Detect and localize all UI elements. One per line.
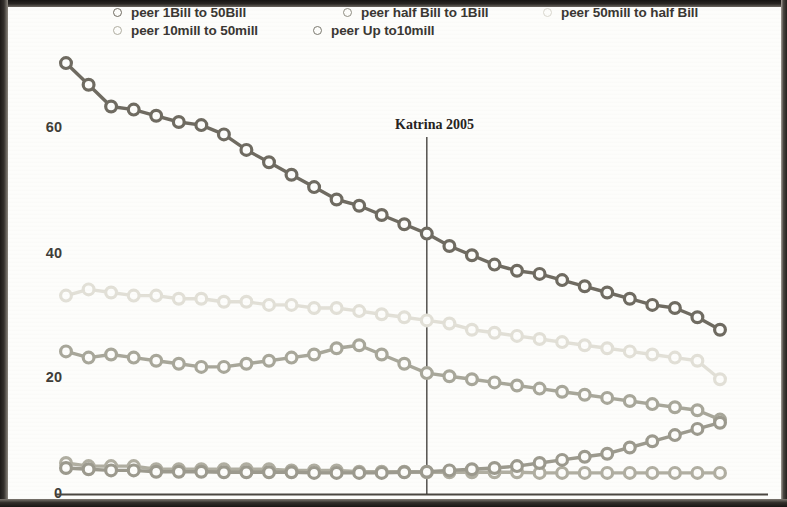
series-data-point-marker [534,334,545,345]
series-data-point-marker [173,466,184,477]
series-line [66,423,720,473]
series-data-point-marker [670,352,681,363]
series-data-point-marker [286,169,297,180]
series-data-point-marker [376,309,387,320]
series-data-point-marker [692,468,703,479]
series-data-point-marker [444,318,455,329]
series-data-point-marker [512,461,523,472]
series-data-point-marker [83,352,94,363]
series-data-point-marker [219,296,230,307]
frame-border-bottom [0,499,787,507]
series-data-point-marker [647,349,658,360]
series-data-point-marker [106,349,117,360]
series-data-point-marker [286,352,297,363]
series-data-point-marker [579,340,590,351]
series-data-point-marker [489,377,500,388]
series-data-point-marker [196,293,207,304]
series-data-point-marker [534,383,545,394]
series-data-point-marker [309,303,320,314]
series-line [66,289,720,379]
series-data-point-marker [61,58,72,69]
series-data-point-marker [331,194,342,205]
series-data-point-marker [264,157,275,168]
series-data-point-marker [647,468,658,479]
series-data-point-marker [692,355,703,366]
series-data-point-marker [421,228,432,239]
series-data-point-marker [579,281,590,292]
series-data-point-marker [128,290,139,301]
series-data-point-marker [489,259,500,270]
chart-screenshot: peer 1Bill to 50Billpeer half Bill to 1B… [0,0,787,507]
series-data-point-marker [692,405,703,416]
series-data-point-marker [106,287,117,298]
series-data-point-marker [376,349,387,360]
series-data-point-marker [61,290,72,301]
series-data-point-marker [219,467,230,478]
series-data-point-marker [624,396,635,407]
series-data-point-marker [196,466,207,477]
series-data-point-marker [83,284,94,295]
series-data-point-marker [670,402,681,413]
series-data-point-marker [444,241,455,252]
series-data-point-marker [624,346,635,357]
series-data-point-marker [354,306,365,317]
series-data-point-marker [534,458,545,469]
series-data-point-marker [692,312,703,323]
series-data-point-marker [128,352,139,363]
series-data-point-marker [647,436,658,447]
series-data-point-marker [331,303,342,314]
series-data-point-marker [83,79,94,90]
series-data-point-marker [106,101,117,112]
series-data-point-marker [512,265,523,276]
series-data-point-marker [421,315,432,326]
series-data-point-marker [376,210,387,221]
series-data-point-marker [151,110,162,121]
series-data-point-marker [557,455,568,466]
series-data-point-marker [61,346,72,357]
series-data-point-marker [715,324,726,335]
series-data-point-marker [83,464,94,475]
series-data-point-marker [128,104,139,115]
series-data-point-marker [467,374,478,385]
series-data-point-marker [196,120,207,131]
series-data-point-marker [151,290,162,301]
series-data-point-marker [399,219,410,230]
series-data-point-marker [467,250,478,261]
series-data-point-marker [624,293,635,304]
series-data-point-marker [512,380,523,391]
frame-border-left [0,0,8,507]
series-data-point-marker [309,182,320,193]
series-data-point-marker [715,417,726,428]
series-data-point-marker [61,463,72,474]
series-data-point-marker [331,468,342,479]
series-data-point-marker [557,275,568,286]
series-data-point-marker [444,371,455,382]
series-data-point-marker [264,355,275,366]
series-data-point-marker [670,468,681,479]
series-data-point-marker [512,331,523,342]
series-data-point-marker [579,451,590,462]
series-data-point-marker [557,468,568,479]
series-line [66,63,720,330]
series-data-point-marker [399,467,410,478]
series-data-point-marker [151,355,162,366]
series-data-point-marker [421,368,432,379]
series-data-point-marker [624,442,635,453]
series-data-point-marker [670,430,681,441]
series-data-point-marker [376,468,387,479]
series-data-point-marker [173,117,184,128]
series-data-point-marker [196,362,207,373]
series-data-point-marker [309,349,320,360]
series-data-point-marker [264,300,275,311]
series-data-point-marker [557,337,568,348]
series-data-point-marker [421,466,432,477]
series-data-point-marker [692,424,703,435]
series-data-point-marker [579,389,590,400]
series-data-point-marker [241,145,252,156]
series-data-point-marker [602,287,613,298]
series-data-point-marker [557,386,568,397]
series-data-point-marker [264,467,275,478]
series-data-point-marker [602,468,613,479]
series-data-point-marker [151,466,162,477]
series-data-point-marker [241,296,252,307]
